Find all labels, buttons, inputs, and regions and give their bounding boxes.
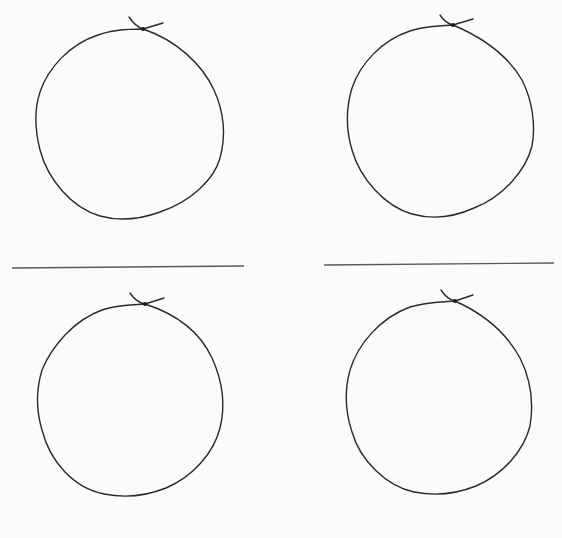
circle-bottom-left [38, 293, 223, 496]
circle-top-left [36, 17, 224, 219]
circle-top-right [348, 15, 534, 217]
circle-bottom-right [346, 290, 531, 494]
worksheet-page [0, 0, 562, 538]
divider-right [324, 263, 554, 265]
divider-left [12, 266, 244, 268]
